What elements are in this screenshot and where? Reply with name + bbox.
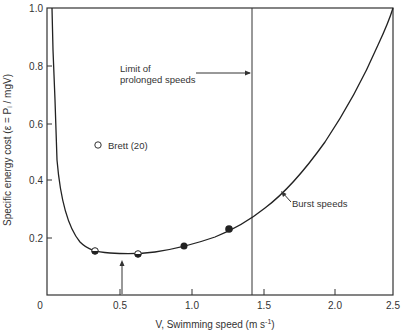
x-axis-title: V, Swimming speed (m s-1) (155, 318, 274, 330)
data-point-3 (181, 243, 188, 250)
x-tick-1.0: 1.0 (185, 300, 199, 311)
data-point-1 (92, 248, 99, 255)
limit-label-line2: prolonged speeds (120, 74, 196, 85)
x-tick-2.0: 2.0 (328, 300, 342, 311)
data-point-4 (225, 225, 233, 233)
data-points (92, 225, 233, 257)
burst-arrow-icon (281, 191, 291, 202)
x-tick-2.5: 2.5 (386, 300, 400, 311)
x-tick-0.5: 0.5 (113, 300, 127, 311)
y-tick-0.8: 0.8 (29, 61, 43, 72)
brett-label: Brett (20) (108, 140, 148, 151)
y-axis-title: Specific energy cost (ε = Pᵢ / mgV) (2, 74, 13, 226)
x-axis-ticks (120, 289, 335, 295)
limit-arrow-icon (196, 71, 251, 76)
y-tick-1.0: 1.0 (29, 3, 43, 14)
x-tick-1.5: 1.5 (257, 300, 271, 311)
brett-open-circle-marker (95, 142, 101, 148)
burst-speeds-label: Burst speeds (292, 198, 348, 209)
chart: 1.0 0.8 0.6 0.4 0.2 0 0.5 1.0 1.5 2.0 2.… (0, 0, 406, 333)
optimum-speed-arrow-icon (120, 260, 125, 294)
energy-cost-curve (52, 8, 393, 254)
y-tick-0.6: 0.6 (29, 119, 43, 130)
y-tick-0.4: 0.4 (29, 175, 43, 186)
y-axis-ticks (47, 66, 52, 238)
x-tick-0: 0 (37, 300, 43, 311)
data-point-2 (135, 251, 142, 258)
y-tick-0.2: 0.2 (29, 233, 43, 244)
limit-label-line1: Limit of (120, 63, 151, 74)
